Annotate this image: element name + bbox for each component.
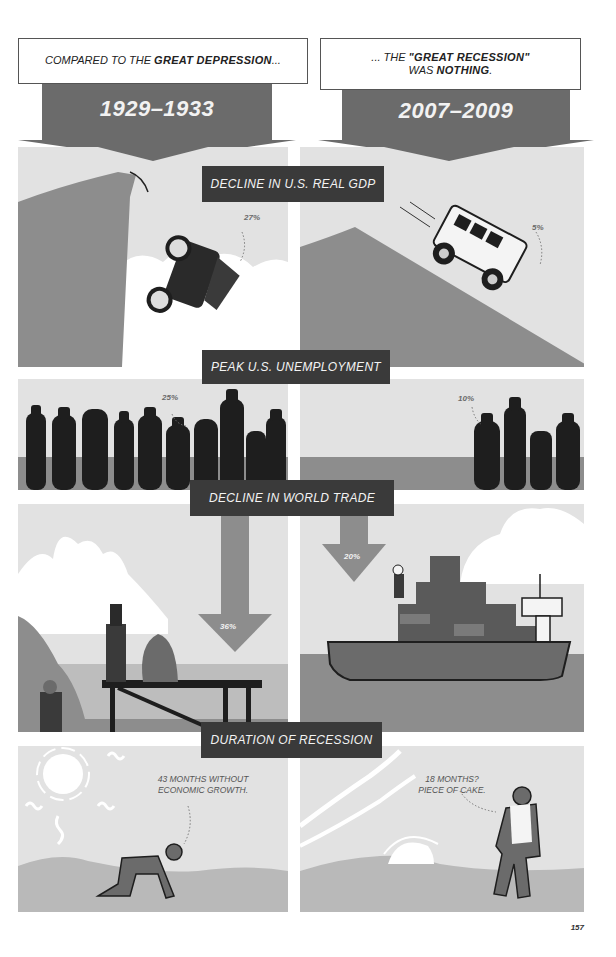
trade-panel-left: 36%	[18, 504, 288, 732]
page-number: 157	[571, 923, 584, 932]
unemployment-left-value: 25%	[162, 393, 178, 402]
duration-metric-label: DURATION OF RECESSION	[201, 722, 382, 758]
right-caption-text: ... THE "GREAT RECESSION" WAS NOTHING.	[371, 51, 529, 77]
left-caption-text: COMPARED TO THE GREAT DEPRESSION...	[45, 54, 281, 67]
right-caption-line2-suffix: .	[489, 64, 492, 76]
unemployed-few-illustration	[300, 379, 584, 490]
duration-right-speech: 18 MONTHS? PIECE OF CAKE.	[412, 774, 492, 795]
right-caption-line2-prefix: WAS	[409, 64, 437, 76]
unemployment-right-value: 10%	[458, 394, 474, 403]
trade-metric-label: DECLINE IN WORLD TRADE	[190, 480, 394, 516]
left-caption-suffix: ...	[272, 54, 281, 66]
merchant-dock-illustration	[18, 504, 288, 732]
container-ship-illustration	[300, 504, 584, 732]
right-caption-prefix: ... THE	[371, 51, 408, 63]
left-caption-emphasis: GREAT DEPRESSION	[154, 54, 272, 66]
unemployment-metric-label: PEAK U.S. UNEMPLOYMENT	[202, 350, 390, 384]
crawling-man-illustration	[18, 746, 288, 912]
right-caption-box: ... THE "GREAT RECESSION" WAS NOTHING.	[320, 38, 581, 90]
duration-left-speech: 43 MONTHS WITHOUT ECONOMIC GROWTH.	[148, 774, 258, 795]
trade-panel-right: 20%	[300, 504, 584, 732]
right-years-label: 2007–2009	[318, 98, 594, 124]
gdp-metric-label: DECLINE IN U.S. REAL GDP	[202, 166, 384, 202]
unemployment-panel-left: 25%	[18, 379, 288, 490]
trade-left-value: 36%	[220, 622, 236, 631]
left-years-label: 1929–1933	[18, 96, 296, 122]
unemployed-crowd-illustration	[18, 379, 288, 490]
duration-panel-left: 43 MONTHS WITHOUT ECONOMIC GROWTH.	[18, 746, 288, 912]
left-caption-box: COMPARED TO THE GREAT DEPRESSION...	[18, 38, 308, 84]
unemployment-panel-right: 10%	[300, 379, 584, 490]
duration-panel-right: 18 MONTHS? PIECE OF CAKE.	[300, 746, 584, 912]
left-caption-prefix: COMPARED TO THE	[45, 54, 154, 66]
walking-man-illustration	[300, 746, 584, 912]
trade-right-value: 20%	[344, 552, 360, 561]
gdp-right-value: 5%	[532, 223, 544, 232]
right-caption-line2-emphasis: NOTHING	[437, 64, 490, 76]
right-caption-emphasis: "GREAT RECESSION"	[409, 51, 530, 63]
gdp-left-value: 27%	[244, 213, 260, 222]
